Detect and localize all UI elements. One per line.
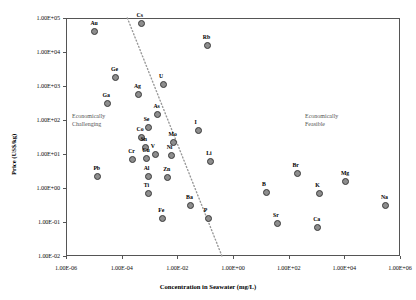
x-tick-mark xyxy=(233,256,234,259)
data-point-marker xyxy=(104,100,111,107)
data-point-marker xyxy=(168,152,175,159)
data-point-marker xyxy=(143,155,150,162)
y-tick-label: 1.00E-01 xyxy=(14,218,60,225)
data-point-marker xyxy=(138,20,145,27)
data-point-marker xyxy=(129,156,136,163)
x-tick-mark xyxy=(177,256,178,259)
data-point-label: Al xyxy=(144,165,150,171)
data-point-label: U xyxy=(159,73,163,79)
y-tick-mark xyxy=(63,222,66,223)
y-tick-label: 1.00E-02 xyxy=(14,252,60,259)
data-point-marker xyxy=(316,190,323,197)
x-tick-mark xyxy=(289,256,290,259)
data-point-label: Pb xyxy=(93,165,100,171)
y-tick-label: 1.00E+02 xyxy=(14,116,60,123)
data-point-label: I xyxy=(194,119,196,125)
x-tick-label: 1.00E+06 xyxy=(374,264,416,271)
data-point-marker xyxy=(159,215,166,222)
data-point-label: Rb xyxy=(203,34,210,40)
data-point-marker xyxy=(314,224,321,231)
x-tick-label: 1.00E+00 xyxy=(207,264,259,271)
x-tick-label: 1.00E+02 xyxy=(263,264,315,271)
y-tick-label: 1.00E+05 xyxy=(14,14,60,21)
x-tick-label: 1.00E-06 xyxy=(40,264,92,271)
y-tick-label: 1.00E+00 xyxy=(14,184,60,191)
data-point-label: Ti xyxy=(144,182,149,188)
data-point-label: Mg xyxy=(341,170,349,176)
data-point-label: Zn xyxy=(163,166,170,172)
data-point-label: Sr xyxy=(273,212,279,218)
x-tick-label: 1.00E-04 xyxy=(96,264,148,271)
data-point-label: Ge xyxy=(111,66,118,72)
y-tick-label: 1.00E+03 xyxy=(14,82,60,89)
data-point-label: Na xyxy=(381,194,388,200)
data-point-marker xyxy=(263,189,270,196)
data-point-label: Ni xyxy=(167,144,173,150)
y-tick-mark xyxy=(63,188,66,189)
data-point-marker xyxy=(205,215,212,222)
data-point-marker xyxy=(152,151,159,158)
data-point-marker xyxy=(145,190,152,197)
y-tick-label: 1.00E+01 xyxy=(14,150,60,157)
data-point-label: Cu xyxy=(142,147,149,153)
data-point-label: Se xyxy=(144,116,150,122)
data-point-marker xyxy=(154,111,161,118)
data-point-label: Cs xyxy=(137,12,143,18)
data-point-label: K xyxy=(315,182,319,188)
data-point-label: V xyxy=(151,143,155,149)
data-point-label: Ga xyxy=(103,92,110,98)
annotation-economically-challenging: EconomicallyChallenging xyxy=(72,112,105,128)
annotation-line: Feasible xyxy=(305,120,338,128)
data-point-label: Ag xyxy=(134,83,141,89)
data-point-marker xyxy=(145,173,152,180)
annotation-line: Economically xyxy=(305,112,338,120)
x-axis-title: Concentration in Seawater (mg/L) xyxy=(0,283,416,290)
data-point-label: Li xyxy=(206,150,211,156)
x-tick-mark xyxy=(344,256,345,259)
annotation-line: Challenging xyxy=(72,120,105,128)
data-point-label: Au xyxy=(90,20,97,26)
data-point-label: B xyxy=(262,181,266,187)
y-tick-label: 1.00E+04 xyxy=(14,48,60,55)
data-point-label: Fe xyxy=(158,207,164,213)
data-point-marker xyxy=(204,42,211,49)
data-point-marker xyxy=(342,178,349,185)
x-tick-mark xyxy=(66,256,67,259)
annotation-economically-feasible: EconomicallyFeasible xyxy=(305,112,338,128)
y-tick-mark xyxy=(63,86,66,87)
x-tick-mark xyxy=(400,256,401,259)
data-point-marker xyxy=(112,74,119,81)
data-point-marker xyxy=(294,170,301,177)
data-point-label: Cr xyxy=(128,148,135,154)
y-tick-mark xyxy=(63,120,66,121)
x-tick-label: 1.00E-02 xyxy=(151,264,203,271)
data-point-label: Ca xyxy=(313,216,320,222)
x-tick-mark xyxy=(122,256,123,259)
data-point-marker xyxy=(145,124,152,131)
data-point-label: P xyxy=(204,207,207,213)
data-point-label: Br xyxy=(293,162,299,168)
annotation-line: Economically xyxy=(72,112,105,120)
y-tick-mark xyxy=(63,154,66,155)
y-tick-mark xyxy=(63,18,66,19)
data-point-label: Sn xyxy=(141,136,147,142)
y-tick-mark xyxy=(63,52,66,53)
data-point-label: Mo xyxy=(169,131,177,137)
data-point-label: Co xyxy=(137,126,144,132)
x-tick-label: 1.00E+04 xyxy=(318,264,370,271)
data-point-label: As xyxy=(153,103,159,109)
scatter-chart: Price (US$/kg) Concentration in Seawater… xyxy=(0,0,416,300)
data-point-label: Ba xyxy=(186,194,193,200)
